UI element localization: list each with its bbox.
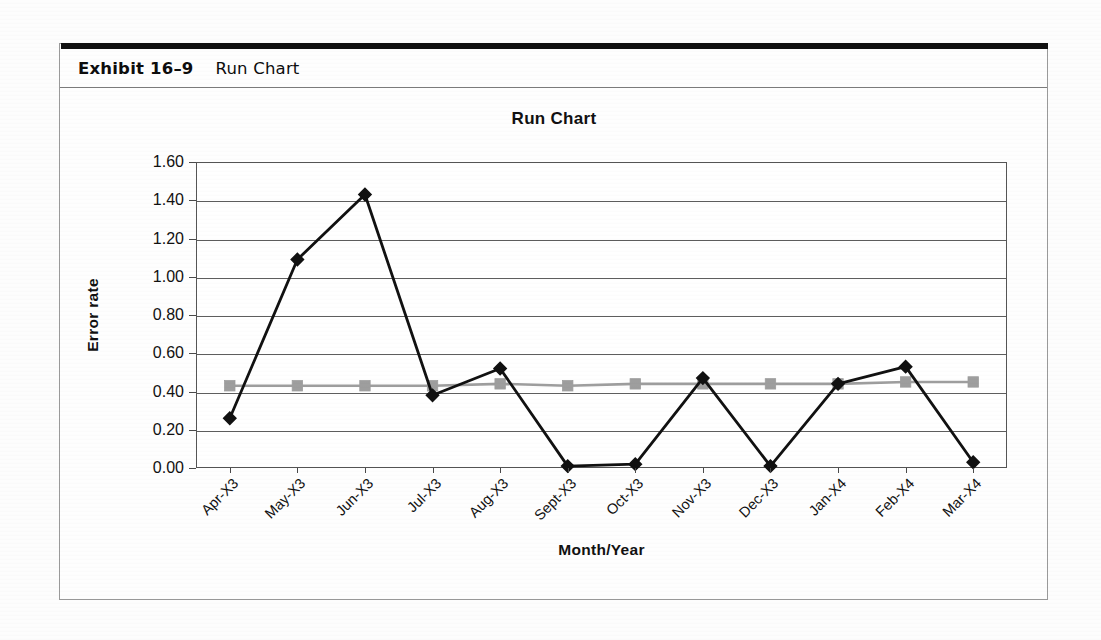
- exhibit-header: Exhibit 16–9 Run Chart: [60, 49, 1047, 88]
- x-axis-tick-mark: [297, 468, 298, 473]
- y-axis-tick-mark: [189, 430, 196, 431]
- data-point-square: [292, 381, 302, 391]
- x-axis-tick-mark: [433, 468, 434, 473]
- y-axis-tick-mark: [189, 162, 196, 163]
- x-axis-title: Month/Year: [196, 541, 1007, 559]
- y-axis-tick-mark: [189, 277, 196, 278]
- y-axis-tick-label: 1.20: [124, 230, 184, 248]
- x-axis-tick-mark: [770, 468, 771, 473]
- y-axis-tick-mark: [189, 200, 196, 201]
- chart-title: Run Chart: [79, 109, 1029, 129]
- y-axis-tick-label: 1.40: [124, 191, 184, 209]
- data-point-square: [360, 381, 370, 391]
- data-point-square: [900, 377, 910, 387]
- x-axis-tick-mark: [635, 468, 636, 473]
- x-axis-tick-mark: [703, 468, 704, 473]
- series-line: [230, 195, 973, 467]
- series-layer: [196, 162, 1007, 468]
- data-point-square: [630, 379, 640, 389]
- y-axis-tick-label: 0.20: [124, 421, 184, 439]
- x-axis-tick-mark: [230, 468, 231, 473]
- y-axis-tick-mark: [189, 315, 196, 316]
- series-line: [230, 382, 973, 386]
- exhibit-number: Exhibit 16–9: [78, 59, 194, 78]
- y-axis-tick-mark: [189, 353, 196, 354]
- data-point-square: [765, 379, 775, 389]
- exhibit-caption: Run Chart: [216, 59, 300, 78]
- x-axis-tick-mark: [500, 468, 501, 473]
- y-axis-tick-label: 0.80: [124, 306, 184, 324]
- y-axis-title-label: Error rate: [84, 278, 102, 352]
- y-axis-tick-mark: [189, 392, 196, 393]
- x-axis-tick-mark: [838, 468, 839, 473]
- data-point-square: [563, 381, 573, 391]
- data-point-square: [495, 379, 505, 389]
- y-axis-tick-label: 0.00: [124, 459, 184, 477]
- y-axis-tick-label: 0.40: [124, 383, 184, 401]
- y-axis-tick-label: 1.00: [124, 268, 184, 286]
- y-axis-tick-label: 1.60: [124, 153, 184, 171]
- data-point-diamond: [224, 412, 236, 424]
- x-axis-tick-mark: [973, 468, 974, 473]
- y-axis-tick-mark: [189, 468, 196, 469]
- y-axis-tick-label: 0.60: [124, 344, 184, 362]
- x-axis-tick-mark: [365, 468, 366, 473]
- y-axis-tick-mark: [189, 239, 196, 240]
- data-point-square: [968, 377, 978, 387]
- x-axis-tick-mark: [568, 468, 569, 473]
- data-point-square: [225, 381, 235, 391]
- run-chart: Run Chart Error rate 0.000.200.400.600.8…: [79, 101, 1029, 581]
- page-canvas: Exhibit 16–9 Run Chart Run Chart Error r…: [0, 0, 1101, 640]
- x-axis-tick-mark: [906, 468, 907, 473]
- y-axis-title: Error rate: [82, 162, 104, 468]
